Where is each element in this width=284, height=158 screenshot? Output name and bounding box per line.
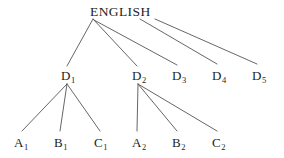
tree-node-d3: D3 [172,69,186,82]
node-subscript: 1 [63,142,67,152]
node-subscript: 3 [182,75,186,85]
tree-edge-d2-b2 [138,84,177,131]
tree-edge-root-d1 [67,19,93,66]
tree-node-a2: A2 [132,136,146,149]
node-subscript: 2 [181,142,185,152]
tree-node-c2: C2 [212,136,225,149]
tree-node-a1: A1 [14,136,28,149]
tree-node-d5: D5 [252,69,266,82]
node-base-label: D [212,68,222,83]
tree-node-d1: D1 [61,69,75,82]
node-subscript: 5 [262,75,266,85]
node-base-label: A [132,135,142,150]
node-subscript: 4 [222,75,226,85]
tree-edge-d2-a2 [137,84,138,131]
node-subscript: 1 [71,75,75,85]
node-base-label: B [54,135,63,150]
node-base-label: ENGLISH [90,4,151,19]
node-subscript: 2 [142,142,146,152]
node-base-label: D [172,68,182,83]
node-subscript: 2 [221,142,225,152]
node-subscript: 1 [103,142,107,152]
node-base-label: C [94,135,103,150]
tree-edge-root-d2 [93,19,137,66]
node-base-label: C [212,135,221,150]
tree-edge-d1-c1 [67,84,100,131]
node-subscript: 2 [142,75,146,85]
tree-diagram: ENGLISHD1D2D3D4D5A1B1C1A2B2C2 [0,0,284,158]
tree-node-d4: D4 [212,69,226,82]
node-base-label: D [252,68,262,83]
tree-node-b2: B2 [172,136,185,149]
tree-node-b1: B1 [54,136,67,149]
node-base-label: D [61,68,71,83]
tree-edge-d1-b1 [60,84,67,131]
node-base-label: B [172,135,181,150]
tree-node-c1: C1 [94,136,107,149]
tree-edge-root-d3 [94,20,177,65]
node-subscript: 1 [24,142,28,152]
tree-edge-d1-a1 [22,84,67,131]
node-base-label: A [14,135,24,150]
tree-edge-d2-c2 [138,84,217,131]
tree-node-d2: D2 [132,69,146,82]
tree-node-root-root: ENGLISH [90,5,151,19]
node-base-label: D [132,68,142,83]
